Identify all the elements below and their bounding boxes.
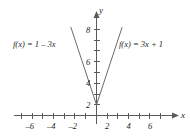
y-tick-label-8: 8 xyxy=(86,26,90,35)
line-f-1-minus-3x xyxy=(71,27,97,105)
coordinate-plane xyxy=(0,0,190,140)
y-tick-label-6: 6 xyxy=(86,58,90,67)
x-axis-label: x xyxy=(181,111,185,120)
function-label-left: f(x) = 1 – 3x xyxy=(13,40,56,49)
y-tick-label-4: 4 xyxy=(86,79,90,88)
x-tick-label-6: 6 xyxy=(148,122,152,131)
function-label-right: f(x) = 3x + 1 xyxy=(119,40,163,49)
x-tick-label-2: 2 xyxy=(105,122,109,131)
x-tick-label-4: 4 xyxy=(127,122,131,131)
graph-figure: y x 2 4 6 8 –6 –4 –2 2 4 6 f(x) = 1 – 3x… xyxy=(0,0,190,140)
x-tick-label-neg4: –4 xyxy=(47,122,56,131)
x-tick-label-neg2: –2 xyxy=(69,122,78,131)
x-tick-label-neg6: –6 xyxy=(26,122,35,131)
y-axis-label: y xyxy=(99,6,103,15)
x-axis-arrow-icon xyxy=(172,113,179,119)
y-tick-label-2: 2 xyxy=(86,101,90,110)
